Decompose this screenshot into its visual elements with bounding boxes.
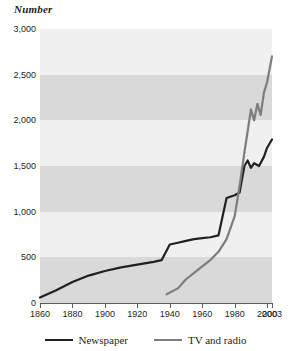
y-tick-label: 3,000 bbox=[13, 25, 36, 34]
y-tick-label: 2,000 bbox=[13, 116, 36, 125]
y-tick-label: 500 bbox=[21, 253, 36, 262]
x-tick bbox=[170, 303, 171, 308]
x-tick-label: 1980 bbox=[225, 310, 245, 319]
y-tick-label: 0 bbox=[31, 299, 36, 308]
x-tick bbox=[272, 303, 273, 308]
y-axis-labels: 05001,0001,5002,0002,5003,000 bbox=[0, 0, 36, 351]
x-tick-label: 1960 bbox=[192, 310, 212, 319]
x-tick bbox=[105, 303, 106, 308]
x-tick bbox=[72, 303, 73, 308]
legend-swatch-icon bbox=[154, 339, 182, 342]
chart-legend: NewspaperTV and radio bbox=[0, 330, 291, 350]
x-tick-label: 2003 bbox=[262, 310, 282, 319]
x-tick-label: 1920 bbox=[127, 310, 147, 319]
x-axis-line bbox=[40, 303, 272, 304]
legend-label: TV and radio bbox=[188, 334, 246, 346]
x-tick-label: 1880 bbox=[62, 310, 82, 319]
legend-entry-tv-and-radio[interactable]: TV and radio bbox=[154, 334, 246, 346]
x-tick bbox=[202, 303, 203, 308]
y-tick-label: 1,000 bbox=[13, 208, 36, 217]
x-tick bbox=[40, 303, 41, 308]
x-tick-label: 1860 bbox=[30, 310, 50, 319]
x-tick bbox=[267, 303, 268, 308]
x-tick bbox=[235, 303, 236, 308]
y-tick-label: 2,500 bbox=[13, 71, 36, 80]
chart-container: Number 05001,0001,5002,0002,5003,000 186… bbox=[0, 0, 291, 351]
x-tick-label: 1900 bbox=[95, 310, 115, 319]
plot-area bbox=[40, 29, 272, 303]
series-line-newspaper bbox=[40, 140, 272, 298]
legend-label: Newspaper bbox=[79, 334, 128, 346]
x-tick bbox=[137, 303, 138, 308]
y-tick-label: 1,500 bbox=[13, 162, 36, 171]
series-line-tv-and-radio bbox=[167, 56, 272, 294]
x-tick-label: 1940 bbox=[160, 310, 180, 319]
legend-entry-newspaper[interactable]: Newspaper bbox=[45, 334, 128, 346]
legend-swatch-icon bbox=[45, 339, 73, 342]
series-lines bbox=[40, 29, 272, 303]
